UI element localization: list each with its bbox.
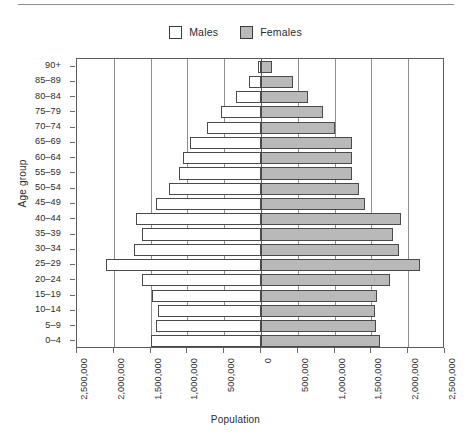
x-tick-mark [150,348,151,353]
top-divider [18,4,454,5]
bar-females [261,61,272,73]
y-tick-label: 20–24 [35,275,61,284]
x-tick-label: 2,500,000 [448,358,457,400]
y-tick-mark [70,264,75,265]
bar-row [77,90,443,105]
y-tick-mark [70,142,75,143]
legend-label-males: Males [189,27,218,38]
bar-row [77,318,443,333]
bar-females [261,106,323,118]
bar-males [106,259,261,271]
x-tick-label: 500,000 [227,358,236,392]
bar-males [207,122,261,134]
bar-row [77,135,443,150]
bar-females [261,244,399,256]
x-tick-mark [407,348,408,353]
bar-females [261,320,376,332]
bar-row [77,181,443,196]
y-tick-mark [70,295,75,296]
y-tick-label: 50–54 [35,183,61,192]
y-tick-mark [70,340,75,341]
bar-row [77,273,443,288]
y-tick-label: 30–34 [35,244,61,253]
plot-area [76,58,444,348]
bar-row [77,166,443,181]
bar-females [261,152,352,164]
bar-row [77,59,443,74]
bar-females [261,228,393,240]
bar-males [158,305,261,317]
legend-item-females: Females [240,26,302,39]
y-tick-label: 90+ [45,61,61,70]
x-tick-mark [334,348,335,353]
bar-row [77,212,443,227]
y-tick-label: 70–74 [35,122,61,131]
bar-females [261,122,335,134]
bar-females [261,198,365,210]
y-axis: 90+85–8980–8475–7970–7465–6960–6455–5950… [0,58,70,348]
square-outline-icon [169,26,182,39]
y-tick-label: 75–79 [35,107,61,116]
x-tick-mark [260,348,261,353]
x-tick-mark [113,348,114,353]
x-tick-label: 1,000,000 [190,358,199,400]
bar-females [261,167,352,179]
square-filled-icon [240,26,253,39]
bar-females [261,76,293,88]
bar-males [142,228,261,240]
y-tick-mark [70,127,75,128]
legend-label-females: Females [260,27,302,38]
bar-row [77,105,443,120]
x-tick-label: 2,000,000 [117,358,126,400]
y-tick-mark [70,234,75,235]
bar-females [261,259,420,271]
y-tick-label: 65–69 [35,137,61,146]
bar-males [152,290,261,302]
bar-males [249,76,261,88]
x-tick-mark [444,348,445,353]
y-tick-mark [70,172,75,173]
bar-males [136,213,261,225]
bar-males [183,152,261,164]
bar-males [156,320,261,332]
x-tick-label: 1,000,000 [338,358,347,400]
y-tick-label: 85–89 [35,76,61,85]
x-tick-label: 500,000 [301,358,310,392]
x-tick-label: 2,000,000 [411,358,420,400]
bar-row [77,74,443,89]
bar-females [261,290,377,302]
bar-males [190,137,261,149]
x-tick-mark [370,348,371,353]
bar-females [261,335,380,347]
y-tick-label: 15–19 [35,290,61,299]
bar-row [77,303,443,318]
y-tick-label: 25–29 [35,259,61,268]
y-tick-label: 45–49 [35,198,61,207]
y-tick-mark [70,203,75,204]
y-tick-label: 35–39 [35,229,61,238]
bar-females [261,183,359,195]
chart-legend: Males Females [0,26,471,39]
bar-females [261,274,390,286]
x-tick-label: 2,500,000 [80,358,89,400]
y-tick-mark [70,218,75,219]
y-tick-mark [70,249,75,250]
bar-row [77,334,443,349]
x-tick-label: 0 [264,358,273,363]
bar-row [77,257,443,272]
x-tick-mark [297,348,298,353]
y-tick-label: 60–64 [35,153,61,162]
bar-row [77,242,443,257]
bar-males [151,335,261,347]
bar-females [261,91,308,103]
bar-males [169,183,261,195]
x-axis-title: Population [0,414,471,425]
y-tick-mark [70,96,75,97]
y-tick-mark [70,111,75,112]
bar-row [77,227,443,242]
bar-row [77,288,443,303]
y-tick-label: 5–9 [45,321,61,330]
bar-females [261,213,401,225]
y-tick-mark [70,325,75,326]
y-tick-label: 55–59 [35,168,61,177]
